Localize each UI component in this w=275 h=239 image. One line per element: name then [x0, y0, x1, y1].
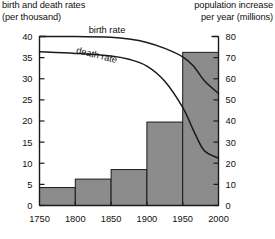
bar	[147, 122, 183, 205]
y-axis-tick-label: 10	[22, 159, 32, 169]
bars-group	[40, 52, 219, 205]
y-axis-tick-label: 20	[22, 116, 32, 126]
y2-axis-tick-label: 40	[226, 116, 236, 126]
y-axis-tick-label: 30	[22, 74, 32, 84]
x-axis-tick-label: 2000	[208, 214, 229, 224]
death-rate-label: death rate	[75, 45, 118, 65]
y2-axis-tick-label: 80	[226, 32, 236, 42]
bar	[75, 179, 111, 205]
y2-axis-tick-label: 0	[226, 201, 231, 211]
y-axis-tick-label: 0	[27, 201, 32, 211]
birth-rate-label: birth rate	[89, 25, 126, 35]
y2-axis-tick-label: 50	[226, 95, 236, 105]
y-axis-tick-label: 35	[22, 53, 32, 63]
y2-axis-tick-label: 30	[226, 138, 236, 148]
y2-axis-tick-label: 60	[226, 74, 236, 84]
y-axis-tick-label: 15	[22, 138, 32, 148]
y2-axis-tick-label: 20	[226, 159, 236, 169]
curve-labels-group: birth ratedeath rate	[75, 25, 125, 65]
x-axis-tick-label: 1800	[65, 214, 86, 224]
x-axis-tick-label: 1900	[137, 214, 158, 224]
y-axis-tick-label: 5	[27, 180, 32, 190]
chart-canvas: 0510152025303540010203040506070801750180…	[0, 0, 275, 239]
x-axis-tick-label: 1950	[172, 214, 193, 224]
x-axis-tick-label: 1850	[101, 214, 122, 224]
figure: birth and death rates (per thousand) pop…	[0, 0, 275, 239]
y2-axis-tick-label: 70	[226, 53, 236, 63]
y2-axis-tick-label: 10	[226, 180, 236, 190]
x-axis-tick-label: 1750	[29, 214, 50, 224]
bar	[111, 170, 147, 206]
y-axis-tick-label: 25	[22, 95, 32, 105]
y-axis-tick-label: 40	[22, 32, 32, 42]
bar	[40, 188, 76, 206]
